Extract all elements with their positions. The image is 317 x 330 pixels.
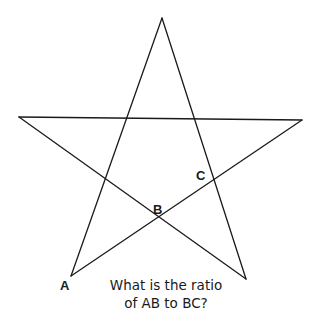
star-figure: A B C What is the ratio of AB to BC? xyxy=(0,0,317,330)
label-b: B xyxy=(153,202,162,217)
label-a: A xyxy=(60,278,70,293)
pentagram-diagram: A B C What is the ratio of AB to BC? xyxy=(0,0,317,330)
question-line-2: of AB to BC? xyxy=(124,295,208,311)
edge-top-to-bottom-right xyxy=(162,18,246,279)
edge-left-to-bottom-right xyxy=(19,117,246,279)
edge-top-to-bottom-left xyxy=(71,18,162,276)
edge-right-to-bottom-left xyxy=(71,120,302,276)
question-line-1: What is the ratio xyxy=(110,277,222,293)
label-c: C xyxy=(196,168,206,183)
edge-left-to-right xyxy=(19,117,302,120)
